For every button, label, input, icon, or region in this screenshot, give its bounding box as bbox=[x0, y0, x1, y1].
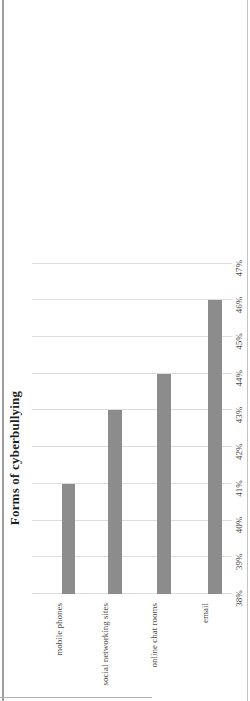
axis-tick-label: 42% bbox=[233, 437, 245, 467]
bar-mobile-phones bbox=[62, 484, 76, 594]
axis-tick-label: 39% bbox=[233, 547, 245, 577]
bar-online-chat-rooms bbox=[157, 374, 171, 594]
category-label: social networking sites bbox=[100, 603, 111, 701]
gridline bbox=[32, 336, 232, 337]
category-label: online chat rooms bbox=[149, 603, 160, 701]
chart-canvas: Forms of cyberbullying 38%39%40%41%42%43… bbox=[0, 0, 250, 701]
axis-tick-label: 45% bbox=[233, 327, 245, 357]
axis-tick-label: 46% bbox=[233, 290, 245, 320]
axis-tick-label: 44% bbox=[233, 363, 245, 393]
gridline bbox=[32, 299, 232, 300]
axis-tick-label: 43% bbox=[233, 400, 245, 430]
gridline bbox=[32, 410, 232, 411]
category-label: email bbox=[200, 603, 211, 701]
gridline bbox=[32, 373, 232, 374]
category-label: mobile phones bbox=[54, 603, 65, 701]
document-page: Forms of cyberbullying 38%39%40%41%42%43… bbox=[0, 0, 250, 701]
gridline bbox=[32, 446, 232, 447]
axis-tick-label: 38% bbox=[233, 584, 245, 614]
axis-tick-label: 47% bbox=[233, 253, 245, 283]
bar-social-networking-sites bbox=[108, 411, 122, 595]
bar-email bbox=[208, 300, 222, 594]
gridline bbox=[32, 263, 232, 264]
plot-area: 38%39%40%41%42%43%44%45%46%47%mobile pho… bbox=[0, 0, 250, 701]
axis-tick-label: 40% bbox=[233, 510, 245, 540]
axis-tick-label: 41% bbox=[233, 473, 245, 503]
